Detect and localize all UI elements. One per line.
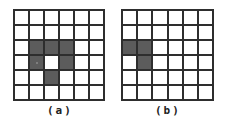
empty-cell: [14, 25, 29, 40]
panel-label-b: (b): [155, 104, 181, 117]
empty-cell: [137, 70, 152, 85]
empty-cell: [168, 70, 183, 85]
empty-cell: [89, 25, 104, 40]
empty-cell: [122, 55, 137, 70]
empty-cell: [89, 70, 104, 85]
empty-cell: [44, 55, 59, 70]
filled-cell: [137, 40, 152, 55]
empty-cell: [74, 25, 89, 40]
empty-cell: [168, 55, 183, 70]
filled-cell: [29, 55, 44, 70]
empty-cell: [152, 85, 167, 100]
empty-cell: [122, 70, 137, 85]
empty-cell: [152, 70, 167, 85]
empty-cell: [59, 70, 74, 85]
empty-cell: [14, 55, 29, 70]
empty-cell: [89, 40, 104, 55]
empty-cell: [44, 10, 59, 25]
empty-cell: [14, 85, 29, 100]
empty-cell: [89, 85, 104, 100]
panel-label-a: (a): [47, 104, 73, 117]
empty-cell: [14, 10, 29, 25]
empty-cell: [89, 10, 104, 25]
empty-cell: [74, 70, 89, 85]
empty-cell: [152, 40, 167, 55]
empty-cell: [168, 10, 183, 25]
filled-cell: [137, 55, 152, 70]
empty-cell: [137, 10, 152, 25]
empty-cell: [152, 55, 167, 70]
empty-cell: [168, 40, 183, 55]
empty-cell: [29, 10, 44, 25]
empty-cell: [183, 85, 198, 100]
filled-cell: [59, 40, 74, 55]
empty-cell: [14, 40, 29, 55]
empty-cell: [122, 10, 137, 25]
empty-cell: [44, 25, 59, 40]
empty-cell: [74, 85, 89, 100]
grid-panel-a: [13, 9, 105, 101]
empty-cell: [122, 85, 137, 100]
empty-cell: [29, 70, 44, 85]
empty-cell: [183, 10, 198, 25]
empty-cell: [198, 55, 213, 70]
filled-cell: [59, 55, 74, 70]
empty-cell: [137, 25, 152, 40]
empty-cell: [122, 25, 137, 40]
empty-cell: [198, 40, 213, 55]
empty-cell: [152, 25, 167, 40]
empty-cell: [59, 10, 74, 25]
filled-cell: [44, 70, 59, 85]
empty-cell: [59, 85, 74, 100]
filled-cell: [29, 40, 44, 55]
empty-cell: [29, 25, 44, 40]
empty-cell: [137, 85, 152, 100]
empty-cell: [74, 10, 89, 25]
empty-cell: [44, 85, 59, 100]
empty-cell: [29, 85, 44, 100]
empty-cell: [59, 25, 74, 40]
empty-cell: [183, 25, 198, 40]
empty-cell: [183, 55, 198, 70]
filled-cell: [44, 40, 59, 55]
empty-cell: [89, 55, 104, 70]
empty-cell: [198, 70, 213, 85]
empty-cell: [198, 85, 213, 100]
empty-cell: [74, 55, 89, 70]
empty-cell: [183, 40, 198, 55]
empty-cell: [198, 25, 213, 40]
empty-cell: [14, 70, 29, 85]
empty-cell: [74, 40, 89, 55]
empty-cell: [198, 10, 213, 25]
center-dot-icon: [36, 62, 38, 64]
grid-panel-b: [121, 9, 214, 101]
empty-cell: [152, 10, 167, 25]
empty-cell: [168, 25, 183, 40]
filled-cell: [122, 40, 137, 55]
empty-cell: [168, 85, 183, 100]
empty-cell: [183, 70, 198, 85]
